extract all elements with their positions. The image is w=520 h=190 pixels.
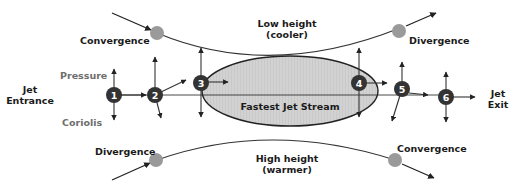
point-3-label: 3 xyxy=(195,78,207,89)
jet-exit-label: Jet Exit xyxy=(483,88,513,110)
divergence-top-label: Divergence xyxy=(409,35,470,46)
fastest-jet-core xyxy=(202,56,378,126)
jet-entrance-label: Jet Entrance xyxy=(6,84,54,106)
convergence-bottom-marker xyxy=(388,153,402,167)
pressure-label: Pressure xyxy=(60,70,107,81)
convergence-top-label: Convergence xyxy=(80,35,150,46)
point-6-label: 6 xyxy=(440,92,452,103)
coriolis-label: Coriolis xyxy=(62,117,102,128)
convergence-bottom-label: Convergence xyxy=(397,143,467,154)
convergence-top-marker xyxy=(150,26,164,40)
point-4-label: 4 xyxy=(353,78,365,89)
low-height-label: Low height (cooler) xyxy=(247,18,327,40)
point-1-label: 1 xyxy=(108,90,120,101)
divergence-top-marker xyxy=(392,24,406,38)
divergence-bottom-label: Divergence xyxy=(95,146,156,157)
point-5-label: 5 xyxy=(396,84,408,95)
high-height-label: High height (warmer) xyxy=(247,153,327,175)
fastest-jet-stream-label: Fastest Jet Stream xyxy=(230,101,350,112)
point-2-label: 2 xyxy=(149,90,161,101)
